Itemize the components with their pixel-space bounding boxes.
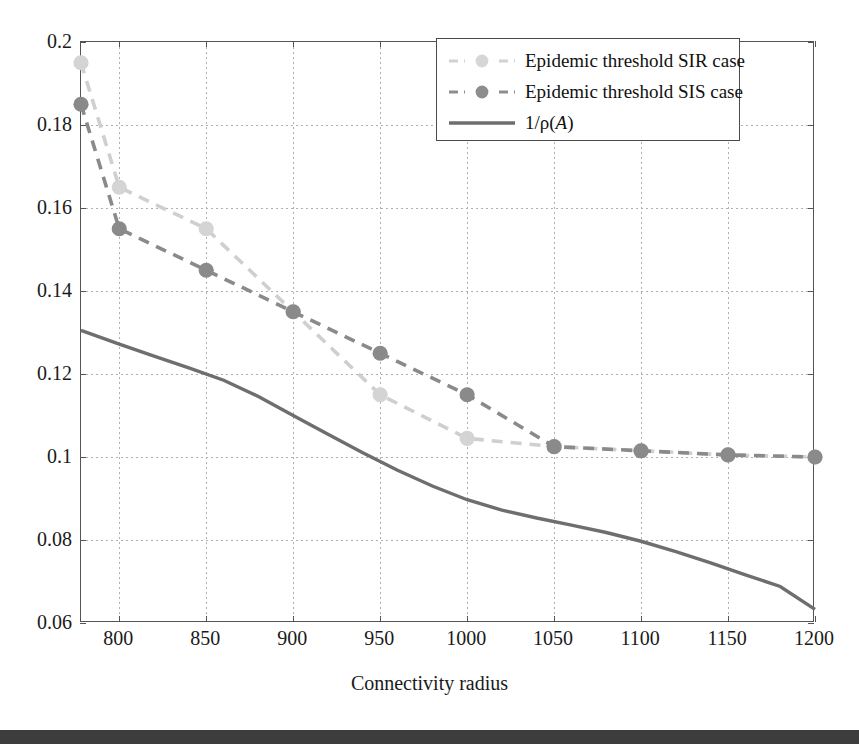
data-point-marker	[112, 180, 127, 195]
y-tick-label: 0.18	[10, 113, 72, 136]
legend-label-prefix: 1/ρ(	[525, 112, 556, 133]
y-tick-label: 0.1	[10, 445, 72, 468]
data-point-marker	[720, 447, 735, 462]
legend-item-sis[interactable]: Epidemic threshold SIS case	[445, 76, 731, 107]
y-tick-label: 0.14	[10, 279, 72, 302]
x-tick-label: 1200	[794, 627, 834, 650]
data-point-marker	[547, 439, 562, 454]
x-axis-tick	[815, 41, 816, 47]
y-axis-tick	[808, 623, 814, 624]
data-point-marker	[73, 97, 88, 112]
legend-swatch-dashed-marker-dark	[445, 82, 519, 102]
legend-label-suffix: )	[567, 112, 573, 133]
data-point-marker	[73, 55, 88, 70]
x-tick-label: 900	[277, 627, 307, 650]
footer-rule	[0, 730, 859, 744]
legend-label-inverse-rho: 1/ρ(A)	[525, 112, 574, 134]
legend: Epidemic threshold SIR case Epidemic thr…	[436, 38, 740, 141]
y-tick-label: 0.16	[10, 196, 72, 219]
y-tick-label: 0.12	[10, 362, 72, 385]
legend-label-italic-A: A	[556, 112, 568, 133]
data-point-marker	[460, 431, 475, 446]
x-tick-label: 1000	[446, 627, 486, 650]
series-line	[81, 104, 815, 457]
legend-item-sir[interactable]: Epidemic threshold SIR case	[445, 45, 731, 76]
data-point-marker	[807, 449, 822, 464]
data-point-marker	[633, 443, 648, 458]
y-tick-label: 0.08	[10, 528, 72, 551]
data-point-marker	[373, 387, 388, 402]
series-line	[81, 330, 815, 609]
data-point-marker	[286, 304, 301, 319]
legend-swatch-solid-line	[445, 113, 519, 133]
x-tick-label: 800	[103, 627, 133, 650]
data-point-marker	[460, 387, 475, 402]
legend-label-sis: Epidemic threshold SIS case	[525, 81, 743, 103]
x-tick-label: 1150	[707, 627, 746, 650]
figure-chart: 0.060.080.10.120.140.160.180.2 800850900…	[0, 0, 859, 744]
x-tick-label: 1050	[533, 627, 573, 650]
x-tick-label: 1100	[620, 627, 659, 650]
legend-item-inverse-rho[interactable]: 1/ρ(A)	[445, 107, 731, 138]
data-point-marker	[373, 346, 388, 361]
data-point-marker	[199, 221, 214, 236]
x-tick-label: 850	[190, 627, 220, 650]
legend-label-sir: Epidemic threshold SIR case	[525, 50, 745, 72]
data-point-marker	[112, 221, 127, 236]
data-point-marker	[199, 263, 214, 278]
x-axis-title: Connectivity radius	[0, 672, 859, 695]
x-tick-label: 950	[364, 627, 394, 650]
x-axis-tick	[815, 616, 816, 622]
y-axis-tick	[80, 623, 86, 624]
y-tick-label: 0.06	[10, 611, 72, 634]
y-tick-label: 0.2	[10, 30, 72, 53]
legend-swatch-dashed-marker-light	[445, 51, 519, 71]
